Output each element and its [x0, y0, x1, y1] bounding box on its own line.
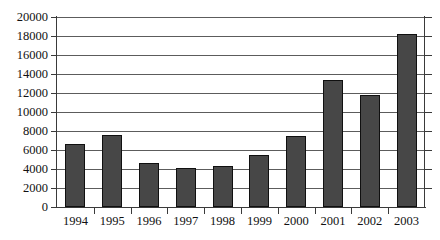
x-axis-tick-label: 2003 [385, 214, 429, 228]
bar-2002 [360, 95, 380, 207]
y-axis-tick-label: 20000 [0, 11, 48, 23]
y-tick-mark-right [425, 55, 432, 56]
y-axis-tick-label: 6000 [0, 144, 48, 156]
y-axis-tick-label: 12000 [0, 87, 48, 99]
bar-chart: 20000 18000 16000 14000 12000 10000 8000… [0, 0, 440, 240]
y-tick-mark-right [425, 112, 432, 113]
bar-1997 [176, 168, 196, 207]
y-tick-mark-right [425, 150, 432, 151]
bar-2001 [323, 80, 343, 207]
y-axis-tick-label: 4000 [0, 163, 48, 175]
y-tick-mark-right [425, 131, 432, 132]
y-tick-mark-right [425, 188, 432, 189]
bars-group [57, 17, 425, 207]
y-tick-mark-right [425, 17, 432, 18]
y-tick-mark [51, 207, 57, 208]
bar-2003 [397, 34, 417, 207]
y-tick-mark-right [425, 36, 432, 37]
bar-2000 [286, 136, 306, 207]
bar-1999 [249, 155, 269, 207]
y-axis-tick-label: 18000 [0, 30, 48, 42]
bar-1994 [65, 144, 85, 207]
bar-1998 [213, 166, 233, 207]
y-axis-tick-label: 14000 [0, 68, 48, 80]
y-tick-mark-right [425, 169, 432, 170]
y-axis-tick-label: 16000 [0, 49, 48, 61]
y-axis-tick-label: 2000 [0, 182, 48, 194]
bar-1995 [102, 135, 122, 207]
y-tick-mark-right [425, 93, 432, 94]
y-axis-tick-label: 8000 [0, 125, 48, 137]
y-axis-tick-label: 10000 [0, 106, 48, 118]
y-axis-tick-label: 0 [0, 201, 48, 213]
bar-1996 [139, 163, 159, 207]
y-tick-mark-right [425, 74, 432, 75]
